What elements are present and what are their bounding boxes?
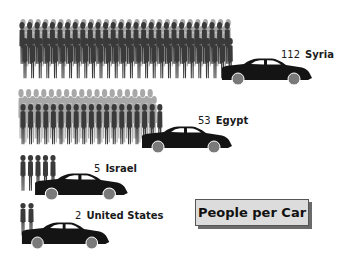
syria-label: 112Syria xyxy=(281,49,334,61)
us-country: United States xyxy=(86,210,163,221)
us-label: 2United States xyxy=(75,210,164,222)
syria-crowd xyxy=(19,19,232,78)
chart-title: People per Car xyxy=(195,199,309,226)
egypt-value: 53 xyxy=(198,115,211,126)
us-car-icon xyxy=(22,223,109,250)
person-icon xyxy=(28,155,33,191)
israel-label: 5Israel xyxy=(94,163,137,175)
syria-car-icon xyxy=(222,59,312,86)
syria-value: 112 xyxy=(281,49,300,60)
egypt-crowd xyxy=(18,89,162,144)
israel-value: 5 xyxy=(94,163,100,174)
egypt-country: Egypt xyxy=(216,115,248,126)
israel-car-icon xyxy=(35,174,128,201)
israel-country: Israel xyxy=(105,163,137,174)
egypt-label: 53Egypt xyxy=(198,115,248,127)
syria-country: Syria xyxy=(305,49,334,60)
person-icon xyxy=(20,155,25,191)
us-value: 2 xyxy=(75,210,81,221)
